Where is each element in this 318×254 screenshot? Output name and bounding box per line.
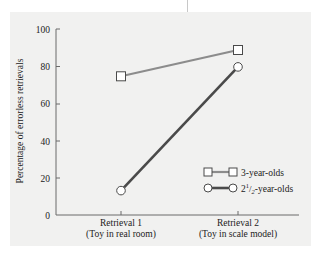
x-axis	[56, 211, 299, 215]
series-3-year-olds	[117, 46, 243, 81]
y-tick-80: 80	[41, 62, 51, 72]
y-tick-labels: 0 20 40 60 80 100	[36, 25, 51, 221]
circle-marker	[117, 186, 126, 195]
legend-label-2-half-year-olds: 21/2-year-olds	[241, 182, 293, 195]
x-sublabel-scale-model: (Toy in scale model)	[199, 229, 277, 240]
x-category-retrieval-2: Retrieval 2 (Toy in scale model)	[199, 218, 277, 240]
x-label-retrieval-1: Retrieval 1	[100, 218, 142, 228]
legend-square-icon	[204, 168, 212, 176]
series-2-half-year-olds	[117, 63, 243, 195]
y-tick-100: 100	[36, 25, 51, 35]
y-tick-60: 60	[41, 99, 51, 109]
x-sublabel-real-room: (Toy in real room)	[86, 229, 156, 240]
y-axis	[56, 29, 60, 215]
legend-item-2-half-year-olds: 21/2-year-olds	[204, 182, 293, 195]
y-axis-label: Percentage of errorless retrievals	[15, 58, 25, 183]
square-marker	[117, 72, 126, 81]
x-label-retrieval-2: Retrieval 2	[217, 218, 259, 228]
legend-circle-icon	[229, 184, 237, 192]
y-tick-40: 40	[41, 137, 51, 147]
y-tick-0: 0	[45, 211, 50, 221]
legend-item-3-year-olds: 3-year-olds	[204, 168, 284, 178]
legend-label-3-year-olds: 3-year-olds	[241, 168, 284, 178]
line-chart: 0 20 40 60 80 100 Percentage of errorles…	[0, 0, 318, 254]
circle-marker	[234, 63, 243, 72]
square-marker	[234, 46, 243, 55]
legend-circle-icon	[204, 184, 212, 192]
legend: 3-year-olds 21/2-year-olds	[204, 168, 293, 195]
y-tick-20: 20	[41, 174, 51, 184]
legend-square-icon	[229, 168, 237, 176]
x-category-retrieval-1: Retrieval 1 (Toy in real room)	[86, 218, 156, 240]
